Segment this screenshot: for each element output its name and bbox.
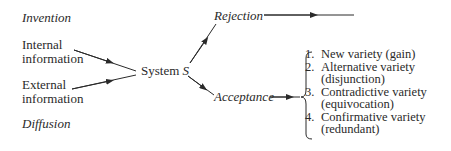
acceptance-label: Acceptance xyxy=(214,90,274,104)
outcome-item: 2. Alternative variety (disjunction) xyxy=(305,61,427,86)
outcome-item: 3. Contradictive variety (equivocation) xyxy=(305,86,427,111)
diffusion-label: Diffusion xyxy=(22,117,70,131)
invention-label: Invention xyxy=(22,11,71,25)
rejection-label: Rejection xyxy=(214,9,263,23)
internal-information-label: Internal information xyxy=(22,38,83,66)
outcome-item: 1. New variety (gain) xyxy=(305,48,427,61)
outcomes-list: 1. New variety (gain) 2. Alternative var… xyxy=(305,48,427,136)
external-information-label: External information xyxy=(22,78,83,106)
outcome-item: 4. Confirmative variety (redundant) xyxy=(305,111,427,136)
system-s-node: System S xyxy=(141,64,189,78)
